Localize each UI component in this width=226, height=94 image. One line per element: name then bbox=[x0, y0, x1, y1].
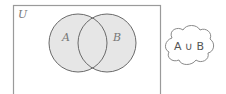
universe-label: U bbox=[18, 8, 28, 21]
set-a-label: A bbox=[61, 31, 70, 44]
set-b-label: B bbox=[112, 31, 121, 44]
callout-text: A ∪ B bbox=[174, 40, 204, 53]
venn-diagram: U A B A ∪ B bbox=[0, 0, 226, 94]
